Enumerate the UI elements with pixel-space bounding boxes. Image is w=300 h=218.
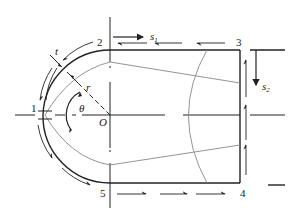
label-s1: s1 xyxy=(150,30,158,44)
label-point-5: 5 xyxy=(100,187,106,199)
section-diagram: 2 3 4 5 1 O t r θ s1 s2 xyxy=(0,0,300,218)
label-radius: r xyxy=(86,81,91,93)
s2-coordinate-indicator xyxy=(250,50,285,185)
inner-profile-lines xyxy=(45,50,240,183)
label-thickness: t xyxy=(55,45,59,57)
label-s2: s2 xyxy=(262,80,270,94)
label-point-3: 3 xyxy=(236,36,242,48)
label-point-1: 1 xyxy=(31,102,37,114)
section-outline xyxy=(43,50,240,183)
label-point-2: 2 xyxy=(97,36,103,48)
top-flow-arrows xyxy=(113,37,225,43)
label-point-4: 4 xyxy=(240,187,246,199)
label-theta: θ xyxy=(79,102,85,114)
label-origin: O xyxy=(99,116,107,128)
